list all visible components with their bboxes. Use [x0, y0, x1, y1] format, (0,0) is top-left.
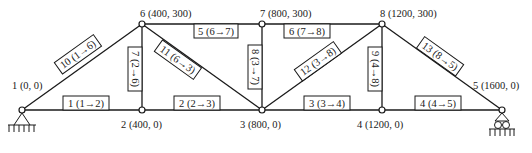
svg-text:8 (3→7): 8 (3→7)	[249, 49, 261, 85]
member-label-7: 7 (2→6)	[128, 47, 142, 91]
svg-text:5 (6→7): 5 (6→7)	[198, 26, 234, 38]
member-label-12: 12 (3→8)	[294, 42, 341, 81]
member-label-13: 13 (8→5)	[416, 37, 463, 76]
svg-text:7 (2→6): 7 (2→6)	[129, 51, 141, 87]
svg-text:10 (1→6): 10 (1→6)	[58, 38, 99, 72]
node-label-1: 1 (0, 0)	[12, 80, 43, 92]
member-label-11: 11 (6→3)	[154, 40, 201, 79]
node-6	[139, 21, 145, 27]
svg-text:13 (8→5): 13 (8→5)	[420, 40, 461, 74]
node-label-8: 8 (1200, 300)	[380, 8, 437, 20]
node-2	[139, 107, 145, 113]
node-1	[19, 107, 25, 113]
node-label-7: 7 (800, 300)	[260, 8, 312, 20]
node-4	[379, 107, 385, 113]
svg-text:12 (3→8): 12 (3→8)	[298, 45, 339, 79]
member-label-6: 6 (7→8)	[284, 24, 330, 38]
member-label-9: 9 (4→8)	[368, 47, 382, 91]
member-label-8: 8 (3→7)	[248, 45, 262, 89]
svg-text:1 (1→2): 1 (1→2)	[68, 98, 104, 110]
svg-text:6 (7→8): 6 (7→8)	[289, 26, 325, 38]
node-8	[379, 21, 385, 27]
node-label-2: 2 (400, 0)	[121, 119, 163, 131]
member-labels: 1 (1→2) 2 (2→3) 3 (3→4) 4 (4→5) 5 (6→7) …	[54, 24, 463, 110]
node-7	[259, 21, 265, 27]
roller-support-icon	[489, 113, 515, 136]
member-label-1: 1 (1→2)	[63, 96, 109, 110]
member-label-5: 5 (6→7)	[194, 24, 238, 38]
svg-text:4 (4→5): 4 (4→5)	[420, 98, 456, 110]
node-label-3: 3 (800, 0)	[240, 119, 282, 131]
node-label-6: 6 (400, 300)	[140, 8, 192, 20]
svg-text:9 (4→8): 9 (4→8)	[369, 51, 381, 87]
node-labels: 1 (0, 0) 2 (400, 0) 3 (800, 0) 4 (1200, …	[12, 8, 520, 131]
member-label-10: 10 (1→6)	[54, 35, 101, 74]
node-label-5: 5 (1600, 0)	[473, 80, 520, 92]
node-label-4: 4 (1200, 0)	[357, 119, 404, 131]
svg-text:3 (3→4): 3 (3→4)	[309, 98, 345, 110]
svg-text:2 (2→3): 2 (2→3)	[179, 98, 215, 110]
member-label-2: 2 (2→3)	[174, 96, 220, 110]
pin-support-icon	[8, 113, 36, 132]
member-label-4: 4 (4→5)	[415, 96, 461, 110]
truss-diagram: 1 (1→2) 2 (2→3) 3 (3→4) 4 (4→5) 5 (6→7) …	[0, 0, 532, 153]
node-3	[259, 107, 265, 113]
member-label-3: 3 (3→4)	[304, 96, 350, 110]
node-5	[499, 107, 505, 113]
